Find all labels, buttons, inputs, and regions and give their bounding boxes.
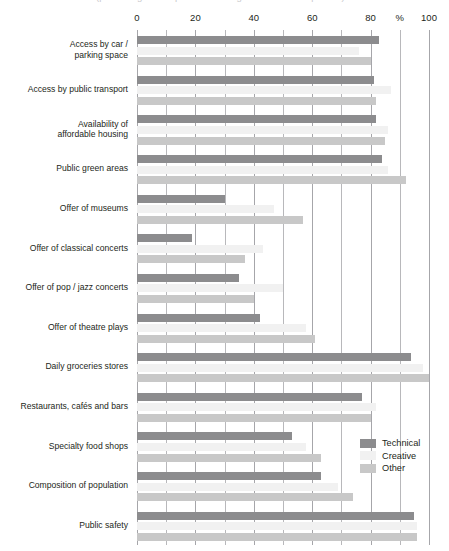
category-label: Access by public transport: [0, 84, 128, 95]
bar-creative: [137, 443, 306, 451]
category-label: Offer of pop / jazz concerts: [0, 282, 128, 293]
bar-technical: [137, 512, 414, 520]
category-label: Specialty food shops: [0, 441, 128, 452]
x-axis-tick-20: 20: [190, 12, 201, 23]
bar-other: [137, 97, 376, 105]
bar-technical: [137, 274, 239, 282]
x-axis-tick-40: 40: [249, 12, 260, 23]
bar-technical: [137, 76, 374, 84]
other-swatch: [360, 464, 376, 473]
category-label: Offer of theatre plays: [0, 322, 128, 333]
bars-container: [137, 512, 429, 541]
bar-creative: [137, 522, 417, 530]
bars-container: [137, 274, 429, 303]
bar-other: [137, 454, 321, 462]
category-label: Offer of classical concerts: [0, 243, 128, 254]
bar-creative: [137, 483, 338, 491]
bar-technical: [137, 314, 260, 322]
bar-other: [137, 176, 406, 184]
x-axis-tick-60: 60: [307, 12, 318, 23]
bar-other: [137, 374, 429, 382]
chart-legend: TechnicalCreativeOther: [360, 437, 446, 475]
chart-title: (percentage of respondents rating the fa…: [96, 0, 345, 2]
x-axis-tick-0: 0: [134, 12, 139, 23]
category-label: Access by car /parking space: [0, 39, 128, 60]
bar-other: [137, 57, 371, 65]
category-label-line: Specialty food shops: [0, 441, 128, 452]
technical-swatch: [360, 439, 376, 448]
bar-group: Public safety: [0, 505, 449, 545]
category-label-line: Access by car /: [0, 39, 128, 50]
category-label-line: Public green areas: [0, 163, 128, 174]
bar-technical: [137, 36, 379, 44]
bar-creative: [137, 86, 391, 94]
bar-group: Offer of classical concerts: [0, 228, 449, 268]
x-axis-tick-100: 100: [421, 12, 437, 23]
bar-creative: [137, 245, 263, 253]
bar-other: [137, 255, 245, 263]
bar-group: Access by public transport: [0, 70, 449, 110]
bars-container: [137, 115, 429, 144]
bar-creative: [137, 364, 423, 372]
category-label: Daily groceries stores: [0, 361, 128, 372]
bar-group: Daily groceries stores: [0, 347, 449, 387]
category-label: Restaurants, cafés and bars: [0, 401, 128, 412]
bar-creative: [137, 205, 274, 213]
category-label-line: Offer of pop / jazz concerts: [0, 282, 128, 293]
legend-item: Technical: [360, 437, 446, 450]
bar-creative: [137, 403, 376, 411]
bar-group: Public green areas: [0, 149, 449, 189]
category-label-line: Access by public transport: [0, 84, 128, 95]
bar-other: [137, 216, 303, 224]
bar-other: [137, 335, 315, 343]
bars-container: [137, 472, 429, 501]
category-label-line: Offer of museums: [0, 203, 128, 214]
bar-creative: [137, 284, 283, 292]
category-label: Offer of museums: [0, 203, 128, 214]
bar-other: [137, 414, 371, 422]
bar-technical: [137, 115, 376, 123]
category-label-line: Restaurants, cafés and bars: [0, 401, 128, 412]
x-axis-tick-labels: 020406080100%: [0, 12, 449, 28]
bars-container: [137, 36, 429, 65]
x-axis-tick-80: 80: [365, 12, 376, 23]
category-label-line: Public safety: [0, 520, 128, 531]
legend-item: Other: [360, 462, 446, 475]
bar-group: Offer of theatre plays: [0, 307, 449, 347]
bar-group: Restaurants, cafés and bars: [0, 387, 449, 427]
category-label-line: Offer of classical concerts: [0, 243, 128, 254]
bar-other: [137, 493, 353, 501]
bar-group: Access by car /parking space: [0, 30, 449, 70]
category-label: Public green areas: [0, 163, 128, 174]
bar-technical: [137, 234, 192, 242]
category-label-line: Availability of: [0, 119, 128, 130]
bars-container: [137, 195, 429, 224]
category-label-line: parking space: [0, 50, 128, 61]
bars-container: [137, 314, 429, 343]
legend-item: Creative: [360, 450, 446, 463]
category-label-line: Composition of population: [0, 480, 128, 491]
horizontal-bar-chart: (percentage of respondents rating the fa…: [0, 0, 449, 551]
bar-group: Availability ofaffordable housing: [0, 109, 449, 149]
chart-title-sliver: (percentage of respondents rating the fa…: [0, 0, 449, 11]
bar-technical: [137, 155, 382, 163]
category-label-line: affordable housing: [0, 129, 128, 140]
x-axis-unit-label: %: [396, 12, 404, 23]
bar-creative: [137, 324, 306, 332]
legend-label: Creative: [382, 451, 416, 461]
bar-other: [137, 533, 417, 541]
bar-creative: [137, 126, 388, 134]
category-label: Public safety: [0, 520, 128, 531]
bar-creative: [137, 47, 359, 55]
bar-creative: [137, 166, 388, 174]
bars-container: [137, 155, 429, 184]
category-label-line: Daily groceries stores: [0, 361, 128, 372]
creative-swatch: [360, 451, 376, 460]
bar-other: [137, 137, 385, 145]
bar-technical: [137, 393, 362, 401]
legend-label: Other: [382, 463, 405, 473]
bar-other: [137, 295, 254, 303]
category-label: Availability ofaffordable housing: [0, 119, 128, 140]
bar-technical: [137, 195, 225, 203]
bars-container: [137, 353, 429, 382]
